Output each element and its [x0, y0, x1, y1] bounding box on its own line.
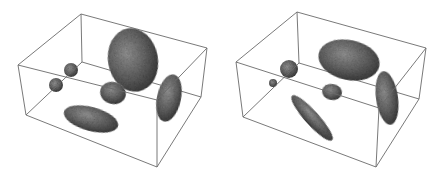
box-edge — [236, 62, 243, 117]
box-edge — [201, 48, 207, 97]
ellipsoids — [269, 34, 402, 145]
box-edge — [376, 108, 379, 167]
ellipsoid-small-center — [321, 82, 343, 101]
ellipsoid-plots-svg — [0, 0, 443, 177]
box-edge — [297, 12, 299, 63]
left-plot — [18, 14, 207, 167]
ellipsoid-small-sphere-front — [49, 78, 63, 92]
ellipsoid-large-top — [315, 34, 384, 86]
box-edge — [297, 12, 426, 48]
ellipsoid-small-sphere-back — [64, 63, 78, 77]
right-plot — [236, 12, 426, 167]
ellipsoid-medium-sphere — [280, 60, 298, 78]
box-edge — [157, 48, 207, 100]
ellipsoids — [49, 24, 186, 138]
figure-canvas — [0, 0, 443, 177]
box-edge — [243, 63, 299, 117]
box-edge — [236, 12, 297, 62]
box-edge — [18, 65, 26, 115]
box-edge — [81, 14, 82, 62]
box-edge — [18, 14, 81, 65]
